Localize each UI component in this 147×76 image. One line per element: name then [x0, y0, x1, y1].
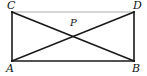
label-A: A	[6, 63, 14, 74]
geometry-canvas	[0, 0, 147, 76]
geometry-figure: CDABP	[0, 0, 147, 76]
label-P: P	[70, 18, 77, 28]
label-B: B	[132, 63, 140, 74]
label-D: D	[133, 0, 142, 11]
label-C: C	[7, 0, 15, 11]
